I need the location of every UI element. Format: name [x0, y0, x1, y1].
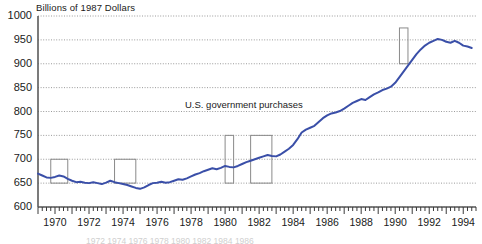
chart-figure: Billions of 1987 Dollars 100095090085080…	[0, 0, 482, 244]
page-bleed-text: 1972 1974 1976 1978 1980 1982 1984 1986	[86, 236, 254, 244]
plot-area	[0, 0, 482, 244]
series-annotation-label: U.S. government purchases	[185, 99, 303, 110]
